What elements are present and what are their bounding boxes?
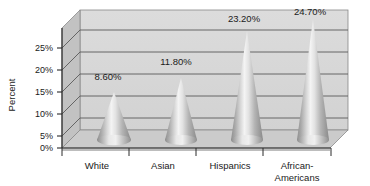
y-tick-label-25: 25% [35, 43, 53, 53]
category-label-african-americans-line1: African- [281, 160, 314, 171]
category-label-asian: Asian [151, 160, 175, 171]
y-tick-label-15: 15% [35, 87, 53, 97]
y-tick-label-0: 0% [40, 143, 53, 153]
value-label-white: 8.60% [95, 71, 122, 82]
y-tick-label-10: 10% [35, 109, 53, 119]
cone-chart: 25% 20% 15% 10% 5% 0% Percent White Asia… [0, 0, 370, 186]
value-label-asian: 11.80% [160, 56, 192, 67]
value-label-african-americans: 24.70% [294, 6, 327, 17]
y-tick-label-20: 20% [35, 65, 53, 75]
category-label-white: White [85, 160, 109, 171]
value-label-hispanics: 23.20% [228, 13, 261, 24]
chart-canvas: 25% 20% 15% 10% 5% 0% Percent White Asia… [0, 0, 370, 186]
category-label-hispanics: Hispanics [209, 160, 250, 171]
category-label-african-americans-line2: Americans [275, 172, 320, 183]
y-axis-title: Percent [6, 78, 17, 111]
y-tick-label-5: 5% [40, 131, 53, 141]
